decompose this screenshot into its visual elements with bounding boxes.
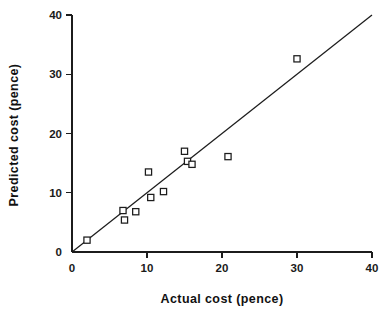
x-tick-label-40: 40 bbox=[366, 262, 379, 274]
data-point-5 bbox=[148, 194, 154, 200]
x-tick-label-0: 0 bbox=[69, 262, 75, 274]
y-tick-label-0: 0 bbox=[56, 246, 62, 258]
data-point-10 bbox=[225, 154, 231, 160]
data-point-1 bbox=[120, 207, 126, 213]
y-tick-label-30: 30 bbox=[49, 68, 62, 80]
y-tick-label-40: 40 bbox=[49, 9, 62, 21]
data-point-4 bbox=[145, 169, 151, 175]
x-axis-title: Actual cost (pence) bbox=[161, 292, 284, 306]
data-point-0 bbox=[84, 237, 90, 243]
reference-line-group bbox=[72, 15, 372, 252]
data-point-6 bbox=[160, 188, 166, 194]
data-point-11 bbox=[294, 56, 300, 62]
x-tick-label-10: 10 bbox=[141, 262, 154, 274]
x-tick-label-30: 30 bbox=[291, 262, 304, 274]
data-point-7 bbox=[181, 148, 187, 154]
y-tick-label-10: 10 bbox=[49, 187, 62, 199]
identity-line bbox=[72, 15, 372, 252]
data-points-group bbox=[84, 56, 300, 244]
plot-canvas: 010203040010203040 Actual cost (pence) P… bbox=[0, 0, 388, 318]
y-tick-label-20: 20 bbox=[49, 128, 62, 140]
y-axis-title: Predicted cost (pence) bbox=[7, 64, 21, 207]
x-tick-label-20: 20 bbox=[216, 262, 229, 274]
scatter-plot-figure: 010203040010203040 Actual cost (pence) P… bbox=[0, 0, 388, 318]
data-point-3 bbox=[133, 209, 139, 215]
data-point-9 bbox=[189, 161, 195, 167]
data-point-2 bbox=[121, 217, 127, 223]
